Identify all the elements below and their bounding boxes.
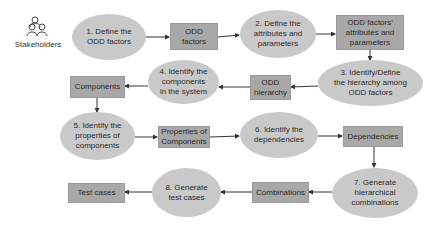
step-6-identify-dependencies: 6. Identify the dependencies — [240, 112, 318, 158]
step-2-define-attributes: 2. Define the attributes and parameters — [240, 10, 316, 58]
artifact-dependencies: Dependencies — [343, 126, 403, 147]
people-group-icon — [25, 16, 51, 38]
step-1-define-odd-factors: 1. Define the ODD factors — [72, 14, 146, 60]
artifact-odd-factors: ODD factors — [170, 23, 218, 50]
artifact-combinations: Combinations — [252, 182, 309, 203]
step-7-generate-combinations: 7. Generate hierarchical combinations — [332, 168, 418, 218]
artifact-test-cases: Test cases — [68, 183, 125, 203]
stakeholders-label: Stakeholders — [14, 40, 62, 49]
step-8-generate-test-cases: 8. Generate test cases — [152, 168, 221, 217]
artifact-properties-of-components: Properties of Components — [158, 126, 210, 148]
artifact-odd-factors-attributes: ODD factors' attributes and parameters — [336, 15, 404, 50]
step-4-identify-components: 4. Identify the components in the system — [148, 60, 219, 104]
step-3-define-hierarchy: 3. Identify/Define the hierarchy among O… — [318, 60, 423, 106]
artifact-odd-hierarchy: ODD hierarchy — [250, 75, 291, 100]
step-5-identify-properties: 5. Identify the properties of components — [60, 112, 135, 160]
stakeholders-actor: Stakeholders — [14, 16, 62, 49]
artifact-components: Components — [70, 76, 125, 98]
